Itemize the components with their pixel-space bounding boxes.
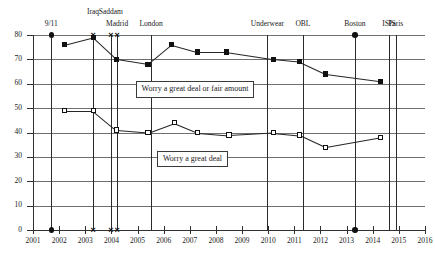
event-label-london: London xyxy=(116,19,186,28)
x-axis-tick xyxy=(425,226,426,234)
x-axis-tick-label: 2016 xyxy=(407,236,435,245)
x-axis-tick xyxy=(164,226,165,234)
y-axis-tick-label: 70 xyxy=(0,55,22,63)
series-lower-point xyxy=(114,127,119,132)
series-upper-point xyxy=(91,35,96,40)
event-label-saddam: Saddam xyxy=(76,7,146,16)
y-axis-tick-label: 0 xyxy=(0,226,22,234)
gridline-horizontal xyxy=(33,59,425,60)
x-axis-tick xyxy=(138,226,139,234)
event-line-boston xyxy=(355,35,356,230)
event-line-iraq xyxy=(93,35,94,230)
event-dot-marker xyxy=(352,32,358,38)
series-lower-segment xyxy=(326,137,381,148)
x-axis-tick xyxy=(33,226,34,234)
event-label-9-11: 9/11 xyxy=(16,19,86,28)
plot-area: 0102030405060708020012002200320042005200… xyxy=(0,0,435,253)
event-line-saddam xyxy=(111,35,112,230)
x-axis-tick xyxy=(242,226,243,234)
y-axis-tick-label: 60 xyxy=(0,79,22,87)
event-line-isis xyxy=(389,35,390,230)
terrorism-worry-line-chart: 0102030405060708020012002200320042005200… xyxy=(0,0,435,253)
event-x-marker: × xyxy=(113,31,122,40)
series-lower-point xyxy=(172,120,177,125)
x-axis-tick xyxy=(399,226,400,234)
series-lower-point xyxy=(62,108,67,113)
event-x-marker: × xyxy=(113,226,122,235)
series-upper-point xyxy=(378,79,383,84)
series-upper-point xyxy=(323,71,328,76)
series-upper-point xyxy=(169,42,174,47)
series-upper-point xyxy=(271,57,276,62)
y-axis-line xyxy=(33,35,34,230)
x-axis-tick xyxy=(347,226,348,234)
y-axis-tick-label: 80 xyxy=(0,31,22,39)
event-line-paris xyxy=(396,35,397,230)
series-upper-point xyxy=(145,62,150,67)
gridline-horizontal xyxy=(33,206,425,207)
y-axis-tick-label: 50 xyxy=(0,104,22,112)
series-upper-point xyxy=(114,57,119,62)
y-axis-tick-label: 40 xyxy=(0,128,22,136)
y-axis-tick-label: 30 xyxy=(0,152,22,160)
series-lower-point xyxy=(226,132,231,137)
series-upper-segment xyxy=(326,74,381,82)
series-callout-great-deal: Worry a great deal xyxy=(157,151,228,168)
x-axis-tick xyxy=(190,226,191,234)
series-lower-segment xyxy=(64,111,93,112)
series-upper-segment xyxy=(198,52,227,53)
series-lower-segment xyxy=(92,111,116,131)
x-axis-tick xyxy=(85,226,86,234)
series-upper-point xyxy=(62,42,67,47)
series-upper-point xyxy=(297,59,302,64)
series-lower-point xyxy=(145,130,150,135)
gridline-horizontal xyxy=(33,157,425,158)
gridline-horizontal xyxy=(33,181,425,182)
y-axis-tick-label: 10 xyxy=(0,201,22,209)
y-axis-tick-label: 20 xyxy=(0,177,22,185)
series-upper-segment xyxy=(171,45,197,53)
series-lower-point xyxy=(323,145,328,150)
event-label-paris: Paris xyxy=(361,19,431,28)
series-upper-point xyxy=(224,49,229,54)
x-axis-tick xyxy=(59,226,60,234)
x-axis-tick xyxy=(320,226,321,234)
event-dot-marker xyxy=(49,32,55,38)
series-lower-point xyxy=(91,108,96,113)
series-upper-point xyxy=(195,49,200,54)
event-x-marker: × xyxy=(89,226,98,235)
series-upper-segment xyxy=(92,37,116,60)
series-lower-point xyxy=(271,130,276,135)
series-callout-great-deal-or-fair-amount: Worry a great deal or fair amount xyxy=(136,81,255,98)
series-upper-segment xyxy=(64,37,93,45)
event-dot-marker xyxy=(49,227,55,233)
x-axis-tick xyxy=(216,226,217,234)
event-line-9-11 xyxy=(51,35,52,230)
event-dot-marker xyxy=(352,227,358,233)
series-lower-point xyxy=(297,132,302,137)
series-lower-point xyxy=(378,135,383,140)
x-axis-tick xyxy=(294,226,295,234)
x-axis-tick xyxy=(373,226,374,234)
series-lower-point xyxy=(195,130,200,135)
